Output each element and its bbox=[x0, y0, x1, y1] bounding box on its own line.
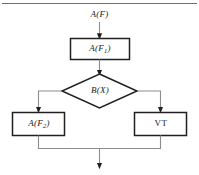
node-proc1-label-open: (F bbox=[95, 43, 104, 53]
node-proc1-label-close: ) bbox=[107, 43, 110, 53]
entry-label: A(F) bbox=[0, 10, 199, 19]
edge-decision-to-proc2 bbox=[39, 91, 63, 110]
node-proc2-label: A(F2) bbox=[12, 119, 66, 128]
node-decision-label: B(X) bbox=[63, 86, 137, 95]
node-terminal-label: VT bbox=[134, 119, 188, 128]
flowchart-figure: A(F) A(F1) B(X) A(F2) VT bbox=[0, 0, 199, 175]
node-proc2-label-sub: 2 bbox=[43, 122, 46, 129]
node-proc2-label-open: (F bbox=[34, 118, 43, 128]
edge-decision-to-terminal bbox=[137, 91, 161, 110]
node-proc1-label: A(F1) bbox=[70, 44, 130, 53]
node-proc2-label-close: ) bbox=[46, 118, 49, 128]
node-proc1-label-sub: 1 bbox=[104, 47, 107, 54]
edge-proc2-to-merge bbox=[39, 136, 100, 149]
edge-terminal-to-merge bbox=[100, 136, 161, 149]
